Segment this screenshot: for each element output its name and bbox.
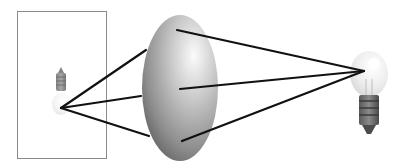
ray-middle-left [61,96,141,108]
ray-top-left [61,50,146,108]
diagram-canvas [0,0,402,167]
lens-diagram [0,0,402,167]
image-bulb-icon [350,51,388,134]
ray-bottom-left [61,108,149,136]
